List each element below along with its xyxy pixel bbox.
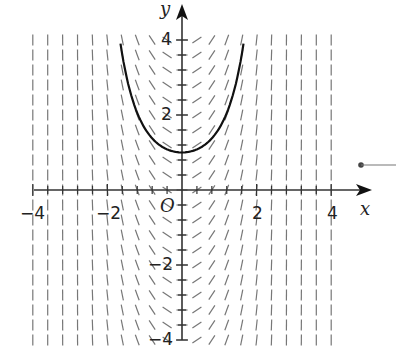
- x-tick-label-4: 4: [327, 203, 338, 223]
- slope-segment: [192, 337, 201, 343]
- slope-segment: [121, 335, 123, 346]
- slope-segment: [241, 65, 243, 76]
- slope-segment: [256, 35, 257, 46]
- slope-segment: [107, 50, 108, 61]
- slope-segment: [209, 260, 215, 269]
- slope-segment: [256, 125, 257, 136]
- slope-segment: [241, 110, 243, 121]
- slope-segment: [209, 155, 215, 164]
- slope-segment: [163, 172, 172, 178]
- slope-segment: [209, 35, 215, 44]
- slope-segment: [256, 170, 257, 181]
- slope-segment: [163, 97, 172, 103]
- slope-segment: [241, 275, 243, 286]
- slope-segment: [107, 170, 108, 181]
- slope-segment: [149, 290, 155, 299]
- slope-segment: [135, 305, 139, 315]
- slope-segment: [149, 305, 155, 314]
- slope-segment: [209, 65, 215, 74]
- slope-segment: [135, 290, 139, 300]
- slope-segment: [135, 65, 139, 75]
- slope-segment: [107, 65, 108, 76]
- slope-segment: [256, 230, 257, 241]
- slope-segment: [135, 140, 139, 150]
- y-axis-label: y: [160, 0, 170, 19]
- slope-segment: [256, 140, 257, 151]
- slope-segment: [192, 217, 201, 223]
- slope-segment: [256, 95, 257, 106]
- slope-segment: [107, 230, 108, 241]
- slope-segment: [209, 170, 215, 179]
- slope-segment: [163, 52, 172, 58]
- slope-segment: [121, 305, 123, 316]
- slope-segment: [241, 140, 243, 151]
- slope-segment: [241, 290, 243, 301]
- y-tick-label-neg4: −4: [148, 329, 173, 349]
- slope-segment: [149, 95, 155, 104]
- slope-segment: [192, 127, 201, 133]
- slope-segment: [225, 200, 229, 210]
- slope-segment: [256, 260, 257, 271]
- slope-segment: [209, 305, 215, 314]
- slope-segment: [163, 67, 172, 73]
- slope-segment: [225, 65, 229, 75]
- slope-segment: [163, 127, 172, 133]
- slope-segment: [209, 215, 215, 224]
- slope-segment: [209, 290, 215, 299]
- slope-segment: [241, 200, 243, 211]
- slope-segment: [256, 245, 257, 256]
- slope-segment: [256, 80, 257, 91]
- slope-segment: [149, 230, 155, 239]
- slope-segment: [241, 335, 243, 346]
- slope-segment: [121, 275, 123, 286]
- slope-segment: [209, 230, 215, 239]
- slope-segment: [225, 170, 229, 180]
- slope-segment: [149, 200, 155, 209]
- slope-segment: [135, 320, 139, 330]
- slope-segment: [241, 170, 243, 181]
- slope-segment: [192, 97, 201, 103]
- slope-segment: [209, 80, 215, 89]
- slope-segment: [209, 125, 215, 134]
- slope-segment: [256, 50, 257, 61]
- slope-segment: [192, 67, 201, 73]
- slope-segment: [107, 335, 108, 346]
- slope-segment: [121, 230, 123, 241]
- slope-segment: [192, 37, 201, 43]
- slope-segment: [225, 95, 229, 105]
- slope-segment: [135, 230, 139, 240]
- slope-segment: [149, 155, 155, 164]
- slope-segment: [241, 155, 243, 166]
- slope-segment: [192, 232, 201, 238]
- origin-label: O: [160, 195, 175, 216]
- slope-segment: [107, 260, 108, 271]
- slope-segment: [107, 110, 108, 121]
- slope-segment: [163, 247, 172, 253]
- slope-field-diagram: [0, 0, 396, 354]
- slope-segment: [225, 215, 229, 225]
- slope-segment: [149, 110, 155, 119]
- y-tick-label-4: 4: [161, 29, 172, 49]
- slope-segment: [121, 80, 123, 91]
- slope-segment: [241, 260, 243, 271]
- slope-segment: [135, 275, 139, 285]
- slope-segment: [135, 215, 139, 225]
- slope-segment: [107, 245, 108, 256]
- slope-segment: [209, 320, 215, 329]
- slope-segment: [192, 157, 201, 163]
- slope-segment: [135, 200, 139, 210]
- slope-segment: [135, 245, 139, 255]
- slope-segment: [256, 65, 257, 76]
- slope-segment: [149, 35, 155, 44]
- slope-segment: [225, 245, 229, 255]
- slope-segment: [256, 320, 257, 331]
- slope-segment: [163, 82, 172, 88]
- slope-segment: [256, 335, 257, 346]
- slope-segment: [241, 215, 243, 226]
- slope-segment: [107, 35, 108, 46]
- slope-segment: [121, 110, 123, 121]
- slope-segment: [163, 157, 172, 163]
- slope-segment: [192, 52, 201, 58]
- slope-segment: [241, 320, 243, 331]
- slope-segment: [241, 230, 243, 241]
